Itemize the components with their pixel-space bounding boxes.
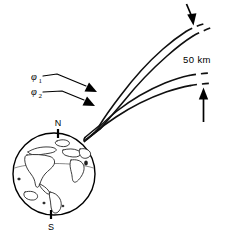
angle-2-leader-line: [43, 91, 84, 100]
landmass-island-a: [43, 202, 46, 204]
angle-2-leader-arrowhead: [83, 97, 96, 107]
angle-1-leader-arrowhead: [85, 83, 98, 93]
ray-bundle-lower: [94, 73, 211, 134]
angle-1-symbol: φ: [31, 71, 37, 82]
earth-globe: N S: [13, 118, 95, 232]
ray-lower-outer-dashed: [189, 73, 210, 76]
ray-lower-outer-solid: [96, 76, 189, 132]
landmass-island-b: [84, 161, 87, 165]
landmass-greenland: [55, 140, 69, 147]
altitude-label: 50 km: [183, 54, 211, 65]
altitude-arrow-bottom: [199, 88, 208, 123]
altitude-arrow-top: [187, 4, 197, 26]
landmass-island-d: [62, 205, 64, 207]
altitude-arrow-bottom-head: [199, 88, 208, 100]
ray-upper-outer-dashed: [186, 24, 205, 32]
ray-path-diagram: Ray paths launched at two elevation angl…: [0, 0, 233, 236]
ray-upper-inner-dashed: [193, 27, 213, 36]
angle-1-annotation: φ 1: [31, 71, 97, 92]
angle-2-annotation: φ 2: [31, 86, 95, 106]
ray-lower-inner-solid: [94, 86, 190, 134]
angle-1-leader-line: [43, 74, 86, 86]
ray-lower-inner-dashed: [190, 83, 211, 85]
south-pole-label: S: [48, 222, 54, 232]
landmass-asia: [79, 149, 90, 159]
landmass-island-c: [18, 178, 21, 180]
ray-bundle-upper: [100, 24, 214, 129]
angle-2-subscript: 2: [39, 92, 43, 100]
north-pole-label: N: [55, 118, 62, 128]
altitude-arrow-top-head: [187, 13, 196, 25]
ray-upper-inner-solid: [101, 36, 194, 129]
figure-root: Ray paths launched at two elevation angl…: [0, 0, 233, 236]
ray-launch-point-closure: [84, 138, 85, 142]
angle-2-symbol: φ: [31, 86, 37, 97]
angle-1-subscript: 1: [39, 77, 43, 85]
